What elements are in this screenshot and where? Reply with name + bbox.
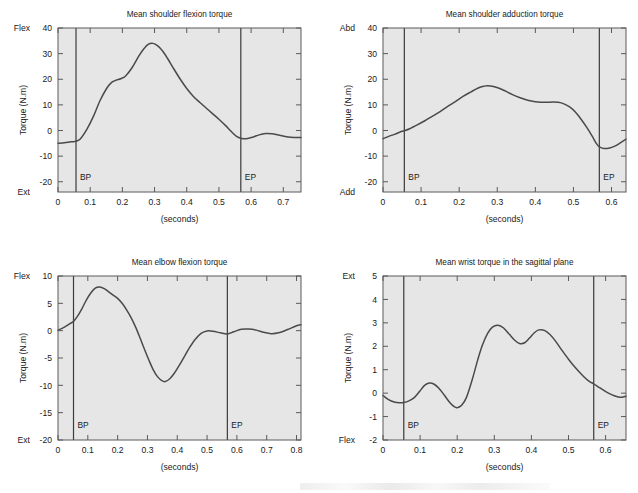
y-tick-label: 4 — [372, 295, 377, 305]
y-axis-label: Torque (N.m) — [343, 333, 353, 383]
x-axis-label: (seconds) — [486, 462, 524, 472]
x-tick-label: 0 — [56, 445, 61, 455]
y-axis-label: Torque (N.m) — [343, 85, 353, 135]
event-label-ep: EP — [598, 420, 610, 430]
x-tick-label: 0.4 — [181, 197, 193, 207]
x-tick-label: 0.3 — [491, 197, 503, 207]
x-tick-label: 0.5 — [213, 197, 225, 207]
x-tick-label: 0.4 — [171, 445, 183, 455]
event-label-bp: BP — [408, 420, 420, 430]
y-tick-label: -10 — [365, 151, 378, 161]
x-tick-label: 0.6 — [245, 197, 257, 207]
x-tick-label: 0.7 — [277, 197, 289, 207]
chart-title: Mean wrist torque in the sagittal plane — [436, 258, 574, 267]
bottom-direction-label: Ext — [18, 435, 31, 445]
x-tick-label: 0.3 — [149, 197, 161, 207]
y-tick-label: 10 — [42, 100, 52, 110]
y-tick-label: 20 — [367, 74, 377, 84]
event-label-ep: EP — [245, 172, 257, 182]
x-tick-label: 0.7 — [261, 445, 273, 455]
y-tick-label: -20 — [40, 177, 53, 187]
chart-title: Mean elbow flexion torque — [132, 258, 228, 267]
event-label-bp: BP — [78, 420, 90, 430]
x-tick-label: 0.2 — [112, 445, 124, 455]
chart-shoulder-flexion: Mean shoulder flexion torque00.10.20.30.… — [0, 0, 313, 246]
top-direction-label: Flex — [14, 23, 31, 33]
y-tick-label: -20 — [365, 177, 378, 187]
x-tick-label: 0 — [381, 445, 386, 455]
plot-background — [383, 276, 626, 440]
x-tick-label: 0.6 — [231, 445, 243, 455]
event-label-bp: BP — [408, 172, 420, 182]
y-tick-label: -15 — [40, 408, 53, 418]
x-tick-label: 0.5 — [567, 197, 579, 207]
x-tick-label: 0.2 — [451, 445, 463, 455]
y-tick-label: 5 — [372, 271, 377, 281]
y-tick-label: 40 — [367, 23, 377, 33]
y-tick-label: -2 — [369, 435, 377, 445]
y-tick-label: 0 — [372, 126, 377, 136]
y-tick-label: 0 — [47, 126, 52, 136]
y-tick-label: 20 — [42, 74, 52, 84]
bottom-direction-label: Add — [340, 187, 356, 197]
y-axis-label: Torque (N.m) — [18, 333, 28, 383]
y-tick-label: -1 — [369, 412, 377, 422]
bottom-direction-label: Ext — [18, 187, 31, 197]
x-tick-label: 0.4 — [529, 197, 541, 207]
bottom-direction-label: Flex — [339, 435, 356, 445]
y-tick-label: 5 — [47, 299, 52, 309]
x-tick-label: 0.1 — [82, 445, 94, 455]
y-tick-label: -10 — [40, 381, 53, 391]
x-tick-label: 0.6 — [606, 197, 618, 207]
chart-svg-wrist-sagittal: Mean wrist torque in the sagittal plane0… — [325, 248, 638, 493]
y-tick-label: 3 — [372, 318, 377, 328]
plot-background — [58, 28, 301, 192]
x-tick-label: 0.4 — [525, 445, 537, 455]
x-tick-label: 0.5 — [201, 445, 213, 455]
chart-elbow-flexion: Mean elbow flexion torque00.10.20.30.40.… — [0, 248, 313, 493]
x-tick-label: 0.6 — [600, 445, 612, 455]
chart-svg-shoulder-adduction: Mean shoulder adduction torque00.10.20.3… — [325, 0, 638, 246]
y-tick-label: 1 — [372, 365, 377, 375]
figure-panel-grid: Mean shoulder flexion torque00.10.20.30.… — [0, 0, 638, 493]
y-axis-label: Torque (N.m) — [18, 85, 28, 135]
chart-shoulder-adduction: Mean shoulder adduction torque00.10.20.3… — [325, 0, 638, 246]
chart-svg-shoulder-flexion: Mean shoulder flexion torque00.10.20.30.… — [0, 0, 313, 246]
x-tick-label: 0.3 — [141, 445, 153, 455]
y-tick-label: -20 — [40, 435, 53, 445]
plot-background — [383, 28, 626, 192]
top-direction-label: Ext — [343, 271, 356, 281]
y-tick-label: -5 — [44, 353, 52, 363]
x-tick-label: 0.8 — [291, 445, 303, 455]
y-tick-label: 10 — [367, 100, 377, 110]
y-tick-label: 10 — [42, 271, 52, 281]
scan-artifact — [300, 483, 550, 490]
x-axis-label: (seconds) — [161, 462, 199, 472]
y-tick-label: -10 — [40, 151, 53, 161]
chart-svg-elbow-flexion: Mean elbow flexion torque00.10.20.30.40.… — [0, 248, 313, 493]
x-tick-label: 0.1 — [84, 197, 96, 207]
x-axis-label: (seconds) — [161, 214, 199, 224]
top-direction-label: Flex — [14, 271, 31, 281]
y-tick-label: 30 — [367, 49, 377, 59]
x-tick-label: 0.1 — [414, 445, 426, 455]
event-label-ep: EP — [231, 420, 243, 430]
y-tick-label: 0 — [372, 388, 377, 398]
y-tick-label: 0 — [47, 326, 52, 336]
plot-background — [58, 276, 301, 440]
event-label-bp: BP — [80, 172, 92, 182]
y-tick-label: 40 — [42, 23, 52, 33]
x-tick-label: 0.1 — [415, 197, 427, 207]
y-tick-label: 2 — [372, 341, 377, 351]
chart-wrist-sagittal: Mean wrist torque in the sagittal plane0… — [325, 248, 638, 493]
top-direction-label: Abd — [340, 23, 356, 33]
x-axis-label: (seconds) — [486, 214, 524, 224]
event-label-ep: EP — [603, 172, 615, 182]
chart-title: Mean shoulder flexion torque — [127, 10, 233, 19]
chart-title: Mean shoulder adduction torque — [446, 10, 564, 19]
x-tick-label: 0.5 — [563, 445, 575, 455]
x-tick-label: 0 — [381, 197, 386, 207]
x-tick-label: 0.2 — [116, 197, 128, 207]
x-tick-label: 0.3 — [488, 445, 500, 455]
y-tick-label: 30 — [42, 49, 52, 59]
